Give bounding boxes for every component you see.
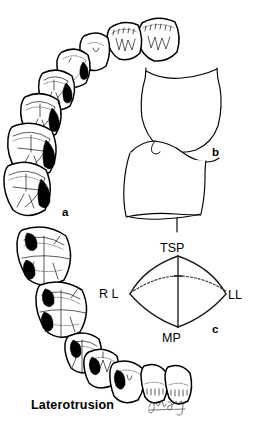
dental-figure-container: a — [0, 0, 255, 434]
tooth-lower-central-incisor-1 — [141, 364, 168, 402]
tooth-upper-left-central-incisor — [138, 18, 179, 61]
panel-letter-c: c — [212, 323, 219, 335]
panel-letter-a: a — [62, 206, 69, 218]
tooth-upper-right-second-molar — [4, 162, 50, 215]
dental-illustration-svg: a — [0, 0, 255, 434]
tooth-lower-central-incisor-2 — [165, 365, 192, 403]
envelope-label-ll: LL — [228, 288, 242, 302]
panel-letter-b: b — [212, 146, 219, 158]
envelope-label-rl: R L — [99, 287, 119, 301]
figure-caption: Laterotrusion — [31, 398, 114, 412]
tooth-lower-lateral-incisor — [110, 361, 144, 403]
envelope-label-tsp: TSP — [160, 241, 184, 255]
envelope-label-mp: MP — [162, 331, 181, 345]
